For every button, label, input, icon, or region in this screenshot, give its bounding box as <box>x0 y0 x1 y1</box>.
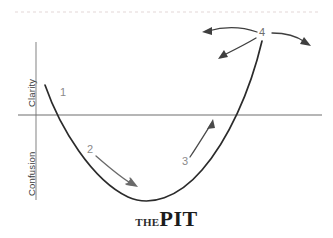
diagram-caption: THEPIT <box>0 206 333 232</box>
arrow-step-4-downleft <box>218 38 256 59</box>
y-axis-label-confusion: Confusion <box>26 151 37 196</box>
pit-curve <box>45 41 262 201</box>
arrow-step-2 <box>96 156 138 187</box>
arrow-step-4-right <box>272 33 311 46</box>
arrow-step-4-left <box>202 27 257 35</box>
diagram-canvas <box>0 0 333 238</box>
caption-pit-text: PIT <box>159 206 197 231</box>
step-number-2: 2 <box>87 143 93 155</box>
caption-the-text: THE <box>135 216 159 228</box>
y-axis-label-clarity: Clarity <box>26 79 37 107</box>
arrow-step-3 <box>190 119 215 157</box>
step-number-4: 4 <box>259 26 265 38</box>
pit-diagram: Clarity Confusion 1 2 3 4 THEPIT <box>0 0 333 238</box>
step-number-1: 1 <box>60 86 66 98</box>
step-number-3: 3 <box>182 155 188 167</box>
